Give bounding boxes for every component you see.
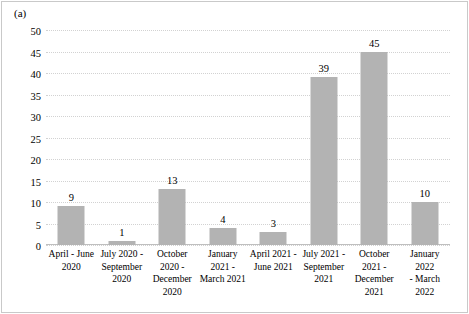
bar-slot: 9 <box>46 30 97 245</box>
bar-slot: 1 <box>97 30 148 245</box>
bar-slot: 13 <box>147 30 198 245</box>
bar-slot: 39 <box>299 30 350 245</box>
bar-value-label: 45 <box>369 38 380 49</box>
x-axis-category-label: January2021 -March 2021 <box>198 248 249 298</box>
y-axis-tick-label: 5 <box>36 219 41 230</box>
plot-area: 05101520253035404550 911343394510 <box>46 30 450 245</box>
bar <box>411 202 438 245</box>
y-axis-tick-label: 45 <box>31 47 42 58</box>
x-axis-category-label: July 2021 -September2021 <box>299 248 350 298</box>
bar <box>159 189 186 245</box>
x-axis-category-label: October 2020 -December2020 <box>147 248 198 298</box>
bar-value-label: 9 <box>69 192 74 203</box>
bar-value-label: 10 <box>420 188 431 199</box>
bar-value-label: 1 <box>119 227 124 238</box>
y-axis-tick-label: 20 <box>31 155 42 166</box>
bar-slot: 4 <box>198 30 249 245</box>
bar-slot: 10 <box>400 30 451 245</box>
y-axis-tick-label: 50 <box>31 26 42 37</box>
bar-series: 911343394510 <box>46 30 450 245</box>
x-axis-category-label: April 2021 -June 2021 <box>248 248 299 298</box>
bar-slot: 3 <box>248 30 299 245</box>
y-axis-tick-label: 15 <box>31 176 42 187</box>
y-axis-tick-label: 0 <box>36 241 41 252</box>
panel-label: (a) <box>14 7 26 19</box>
y-axis-tick-label: 30 <box>31 112 42 123</box>
bar <box>58 206 85 245</box>
bar <box>209 228 236 245</box>
x-axis-category-label: April - June2020 <box>46 248 97 298</box>
y-axis-tick-label: 10 <box>31 198 42 209</box>
x-axis-category-label: January 2022- March2022 <box>400 248 451 298</box>
gridline: 0 <box>46 245 450 246</box>
bar <box>361 52 388 246</box>
y-axis-tick-label: 35 <box>31 90 42 101</box>
bar-value-label: 3 <box>271 218 276 229</box>
y-axis-tick-label: 40 <box>31 69 42 80</box>
y-axis-tick-label: 25 <box>31 133 42 144</box>
bar-chart-figure: (a) 05101520253035404550 911343394510 Ap… <box>0 0 469 314</box>
bar-value-label: 39 <box>319 63 330 74</box>
bar <box>108 241 135 245</box>
bar-value-label: 13 <box>167 175 178 186</box>
x-axis-labels: April - June2020July 2020 -September2020… <box>46 248 450 298</box>
x-axis-category-label: October2021 -December 2021 <box>349 248 400 298</box>
bar-value-label: 4 <box>220 214 225 225</box>
x-axis-category-label: July 2020 -September2020 <box>97 248 148 298</box>
bar <box>260 232 287 245</box>
bar-slot: 45 <box>349 30 400 245</box>
bar <box>310 77 337 245</box>
